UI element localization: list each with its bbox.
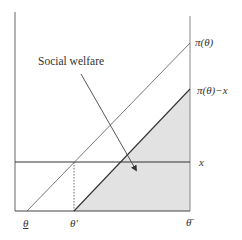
theta-prime-label: θ': [70, 218, 78, 229]
theta-high-label: θ̄: [186, 217, 191, 228]
profit-minus-x-label: π(θ)−x: [197, 85, 228, 96]
welfare-arrow: [81, 74, 136, 170]
social-welfare-label: Social welfare: [38, 56, 104, 68]
x-label: x: [199, 157, 204, 168]
profit-label: π(θ): [195, 37, 213, 48]
theta-low-label: θ: [23, 218, 28, 229]
